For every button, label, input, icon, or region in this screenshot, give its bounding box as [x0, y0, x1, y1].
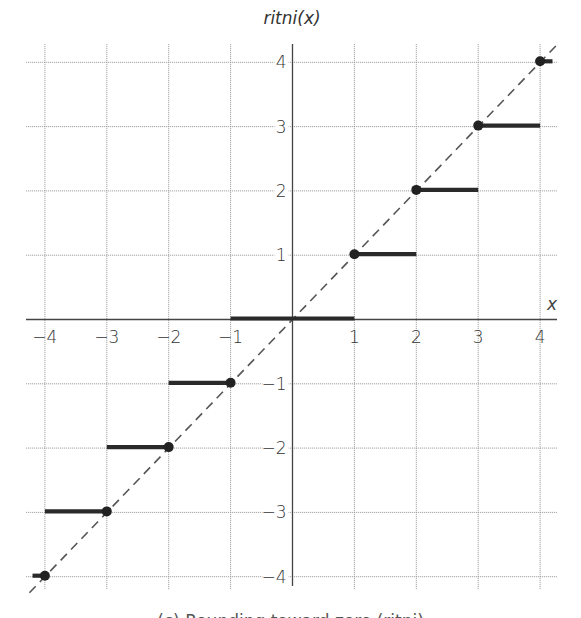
y-tick-label: −1 [261, 374, 286, 394]
y-tick-label: 1 [276, 245, 287, 265]
closed-point [40, 571, 50, 581]
y-tick-label: −4 [261, 567, 286, 587]
closed-point [349, 249, 359, 259]
x-tick-labels: −4−3−2−11234 [32, 327, 545, 347]
closed-point [164, 442, 174, 452]
x-tick-label: 2 [411, 327, 422, 347]
x-tick-label: −3 [94, 327, 119, 347]
closed-point [226, 378, 236, 388]
closed-point [411, 185, 421, 195]
x-axis-variable-label: x [546, 294, 558, 314]
chart-caption: (c) Rounding toward zero (ritni) [0, 606, 581, 618]
y-tick-label: 4 [276, 52, 287, 72]
x-tick-label: 4 [535, 327, 546, 347]
x-tick-label: −1 [218, 327, 243, 347]
x-tick-label: 3 [473, 327, 484, 347]
chart-title: ritni(x) [263, 8, 320, 28]
x-tick-label: −2 [156, 327, 181, 347]
y-tick-label: 2 [276, 181, 287, 201]
y-tick-label: −3 [261, 502, 286, 522]
ritni-chart: −4−3−2−11234 4321−1−2−3−4 ritni(x) x [0, 0, 581, 618]
closed-point [535, 56, 545, 66]
x-tick-label: 1 [349, 327, 360, 347]
closed-point [102, 506, 112, 516]
y-tick-label: 3 [276, 117, 287, 137]
x-tick-label: −4 [32, 327, 57, 347]
closed-point [473, 121, 483, 131]
y-tick-label: −2 [261, 438, 286, 458]
